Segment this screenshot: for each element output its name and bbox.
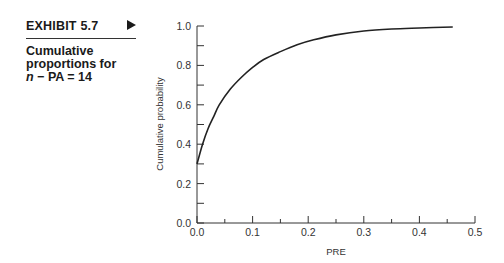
y-tick-label: 1.0 — [176, 20, 191, 32]
chart-curve — [197, 27, 453, 164]
y-axis-title: Cumulative probability — [154, 77, 165, 171]
x-tick-label: 0.4 — [412, 226, 427, 238]
x-tick-label: 0.2 — [301, 226, 316, 238]
y-tick-label: 0.4 — [176, 138, 191, 150]
x-axis-title: PRE — [326, 246, 346, 257]
y-tick-label: 0.6 — [176, 99, 191, 111]
y-tick-label: 0.0 — [176, 217, 191, 229]
y-tick-label: 0.2 — [176, 178, 191, 190]
chart-axes: 0.00.10.20.30.40.50.00.20.40.60.81.0 — [176, 20, 482, 238]
cumulative-curve — [197, 27, 453, 164]
cumulative-probability-chart: 0.00.10.20.30.40.50.00.20.40.60.81.0 PRE… — [0, 0, 504, 263]
x-tick-label: 0.1 — [245, 226, 260, 238]
y-tick-label: 0.8 — [176, 59, 191, 71]
x-tick-label: 0.3 — [356, 226, 371, 238]
x-tick-label: 0.5 — [468, 226, 483, 238]
x-tick-label: 0.0 — [190, 226, 205, 238]
